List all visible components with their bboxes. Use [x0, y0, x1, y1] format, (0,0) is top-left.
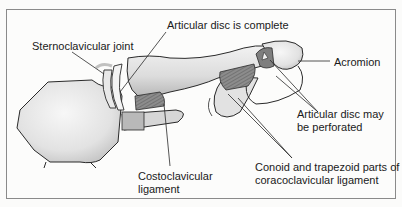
label-articular-disc-complete: Articular disc is complete — [167, 19, 289, 31]
label-conoid-trapezoid-1: Conoid and trapezoid parts of — [255, 161, 399, 173]
label-costoclavicular-1: Costoclavicular — [138, 170, 213, 182]
label-articular-disc-perforated-2: be perforated — [297, 121, 362, 133]
label-costoclavicular-2: ligament — [138, 183, 180, 195]
label-conoid-trapezoid-2: coracoclavicular ligament — [255, 174, 379, 186]
first-rib — [122, 110, 184, 130]
label-sternoclavicular-joint: Sternoclavicular joint — [32, 40, 134, 52]
label-articular-disc-perforated-1: Articular disc may — [297, 108, 384, 120]
label-acromion: Acromion — [334, 56, 380, 68]
